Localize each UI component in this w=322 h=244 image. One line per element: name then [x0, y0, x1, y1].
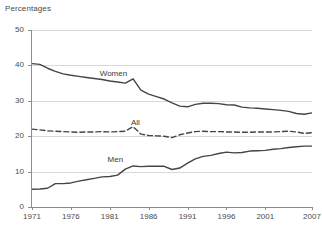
- chart-title: Percentages: [5, 4, 51, 13]
- x-tick-label-1976: 1976: [57, 212, 85, 221]
- series-label-men: Men: [108, 155, 124, 164]
- x-tick-label-1986: 1986: [135, 212, 163, 221]
- plot-area: [32, 30, 312, 207]
- x-tick-label-2007: 2007: [298, 212, 322, 221]
- x-tick-label-1971: 1971: [18, 212, 46, 221]
- y-tick-label-10: 10: [2, 168, 24, 176]
- x-tick-label-1991: 1991: [174, 212, 202, 221]
- y-tick-label-20: 20: [2, 132, 24, 140]
- y-tick-label-40: 40: [2, 61, 24, 69]
- series-label-women: Women: [100, 69, 127, 78]
- series-line-all: [32, 127, 312, 138]
- series-label-all: All: [131, 118, 140, 127]
- y-tick-label-30: 30: [2, 97, 24, 105]
- y-tick-label-50: 50: [2, 26, 24, 34]
- x-tick-label-2001: 2001: [251, 212, 279, 221]
- x-tick-label-1981: 1981: [96, 212, 124, 221]
- y-tick-label-0: 0: [2, 203, 24, 211]
- series-line-men: [32, 146, 312, 189]
- series-line-women: [32, 64, 312, 115]
- chart-container: Percentages 01020304050 1971197619811986…: [0, 0, 322, 244]
- x-axis-line: [32, 207, 313, 208]
- x-tick-label-1996: 1996: [212, 212, 240, 221]
- series-lines: [32, 30, 312, 207]
